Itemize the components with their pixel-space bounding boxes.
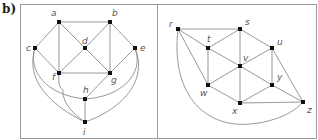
- edge-a-c: [35, 22, 59, 48]
- node-label-b: b: [112, 8, 118, 18]
- edge-d-f: [59, 48, 85, 73]
- node-label-r: r: [169, 19, 174, 29]
- node-label-f: f: [52, 72, 57, 82]
- edge-b-e: [110, 22, 135, 48]
- node-label-d: d: [82, 36, 88, 46]
- panel-border: [21, 5, 158, 139]
- node-label-h: h: [83, 85, 89, 95]
- edge-r-t: [178, 29, 208, 48]
- left-graph: abcdefghi: [21, 5, 158, 139]
- node-e: [133, 46, 137, 50]
- node-x: [238, 101, 242, 105]
- edge-r-w: [178, 29, 208, 85]
- node-z: [301, 100, 305, 104]
- curve-edge-e-i: [85, 48, 139, 122]
- edge-c-f: [35, 48, 59, 73]
- node-u: [270, 46, 274, 50]
- node-r: [176, 27, 180, 31]
- node-v: [238, 64, 242, 68]
- node-a: [57, 20, 61, 24]
- node-label-g: g: [111, 75, 117, 85]
- node-i: [83, 120, 87, 124]
- node-label-v: v: [243, 53, 249, 63]
- node-label-w: w: [200, 88, 208, 98]
- node-label-u: u: [277, 37, 283, 47]
- node-label-i: i: [83, 127, 86, 137]
- edge-e-g: [110, 48, 135, 73]
- node-d: [83, 46, 87, 50]
- node-label-y: y: [276, 72, 283, 82]
- edge-v-w: [208, 66, 240, 85]
- node-y: [270, 83, 274, 87]
- node-label-e: e: [140, 43, 146, 53]
- node-label-c: c: [26, 43, 31, 53]
- panel-border: [158, 5, 317, 139]
- edge-w-x: [208, 85, 240, 103]
- edge-x-y: [240, 85, 272, 103]
- edge-x-z: [240, 102, 303, 103]
- node-c: [33, 46, 37, 50]
- edge-s-t: [208, 29, 240, 48]
- node-s: [238, 27, 242, 31]
- node-label-x: x: [231, 106, 238, 116]
- node-f: [57, 71, 61, 75]
- edge-b-d: [85, 22, 110, 48]
- right-graph: rstuvwxyz: [158, 5, 317, 139]
- edge-d-g: [85, 48, 110, 73]
- node-label-z: z: [306, 105, 312, 115]
- node-t: [206, 46, 210, 50]
- node-b: [108, 20, 112, 24]
- node-w: [206, 83, 210, 87]
- node-h: [83, 97, 87, 101]
- edge-v-y: [240, 66, 272, 85]
- edge-s-u: [240, 29, 272, 48]
- graph-diagram: abcdefghirstuvwxyz: [0, 0, 318, 140]
- node-label-s: s: [245, 17, 250, 27]
- node-label-t: t: [207, 34, 211, 44]
- node-label-a: a: [51, 8, 57, 18]
- edge-t-v: [208, 48, 240, 66]
